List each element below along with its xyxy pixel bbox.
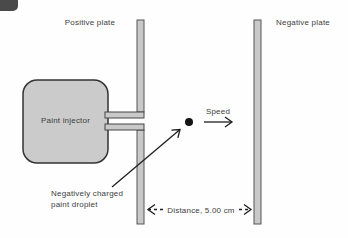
corner-artifact — [0, 0, 18, 11]
paint-droplet — [185, 118, 193, 126]
paint-injector-label: Paint injector — [41, 116, 90, 125]
droplet-label-line2: paint droplet — [51, 200, 98, 209]
negative-plate — [254, 20, 261, 224]
paint-sprayer-plates-diagram: Positive plate Negative plate Paint inje… — [0, 0, 348, 238]
distance-label: Distance, 5.00 cm — [167, 206, 235, 215]
positive-plate-label: Positive plate — [65, 18, 116, 27]
diagram-canvas: Positive plate Negative plate Paint inje… — [0, 0, 348, 238]
nozzle-tube-bottom — [105, 124, 144, 130]
negative-plate-label: Negative plate — [276, 18, 330, 27]
positive-plate-lower — [137, 130, 144, 224]
speed-label: Speed — [206, 107, 230, 116]
droplet-label-line1: Negatively charged — [51, 189, 123, 198]
positive-plate-upper — [137, 20, 144, 112]
nozzle-tube-top — [105, 112, 144, 118]
